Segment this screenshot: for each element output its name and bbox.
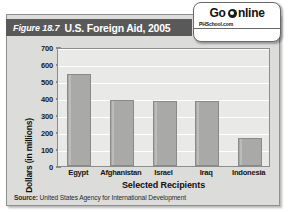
source-prefix: Source:: [14, 194, 38, 201]
online-label: nline: [238, 6, 265, 20]
y-axis-tick-label: 0: [49, 163, 53, 172]
bar-egypt: [67, 74, 91, 166]
figure-root: Figure 18.7 U.S. Foreign Aid, 2005 Go nl…: [0, 0, 292, 212]
go-label: Go: [209, 6, 225, 20]
plot-area: [57, 48, 270, 167]
badge-code-row: Web Code: mng-7185: [194, 28, 280, 42]
x-axis-tick-label: Afghanistan: [100, 168, 141, 177]
bar-highlight: [112, 101, 114, 165]
badge-site-label: PHSchool.com: [194, 21, 280, 27]
x-axis-tick-label: Israel: [154, 168, 172, 177]
y-axis-tick-label: 400: [41, 95, 53, 104]
y-axis-tick-label: 600: [41, 61, 53, 70]
y-axis-tick-label: 500: [41, 78, 53, 87]
globe-icon: [228, 9, 237, 18]
source-text: United States Agency for International D…: [40, 194, 186, 201]
x-axis-tick-labels: EgyptAfghanistanIsraelIraqIndonesia: [57, 168, 270, 179]
bar-afghanistan: [110, 100, 134, 166]
y-axis-tick-label: 300: [41, 112, 53, 121]
bar-indonesia: [238, 138, 262, 166]
web-code-label: Web Code: mng-7185: [199, 40, 258, 43]
bar-highlight: [240, 139, 242, 165]
y-axis-tick-label: 200: [41, 129, 53, 138]
x-axis-tick-label: Indonesia: [232, 168, 265, 177]
source-note: Source: United States Agency for Interna…: [14, 194, 186, 201]
bar-iraq: [195, 101, 219, 166]
y-axis: 0100200300400500600700: [30, 44, 57, 172]
x-axis-tick-label: Iraq: [200, 168, 213, 177]
bar-highlight: [69, 75, 71, 165]
bar-israel: [153, 101, 177, 166]
y-axis-tick-label: 100: [41, 146, 53, 155]
x-axis-tick-label: Egypt: [68, 168, 88, 177]
page-title: U.S. Foreign Aid, 2005: [64, 22, 170, 34]
x-axis-title: Selected Recipients: [57, 180, 270, 190]
go-online-badge[interactable]: Go nline PHSchool.com Web Code: mng-7185: [193, 2, 281, 42]
bar-highlight: [197, 102, 199, 165]
go-online-wordmark: Go nline: [194, 5, 280, 21]
bars-layer: [58, 49, 269, 166]
figure-number: Figure 18.7: [13, 23, 59, 33]
figure-title-bar: Figure 18.7 U.S. Foreign Aid, 2005: [6, 19, 192, 36]
y-axis-tick-label: 700: [41, 44, 53, 53]
bar-highlight: [155, 102, 157, 165]
